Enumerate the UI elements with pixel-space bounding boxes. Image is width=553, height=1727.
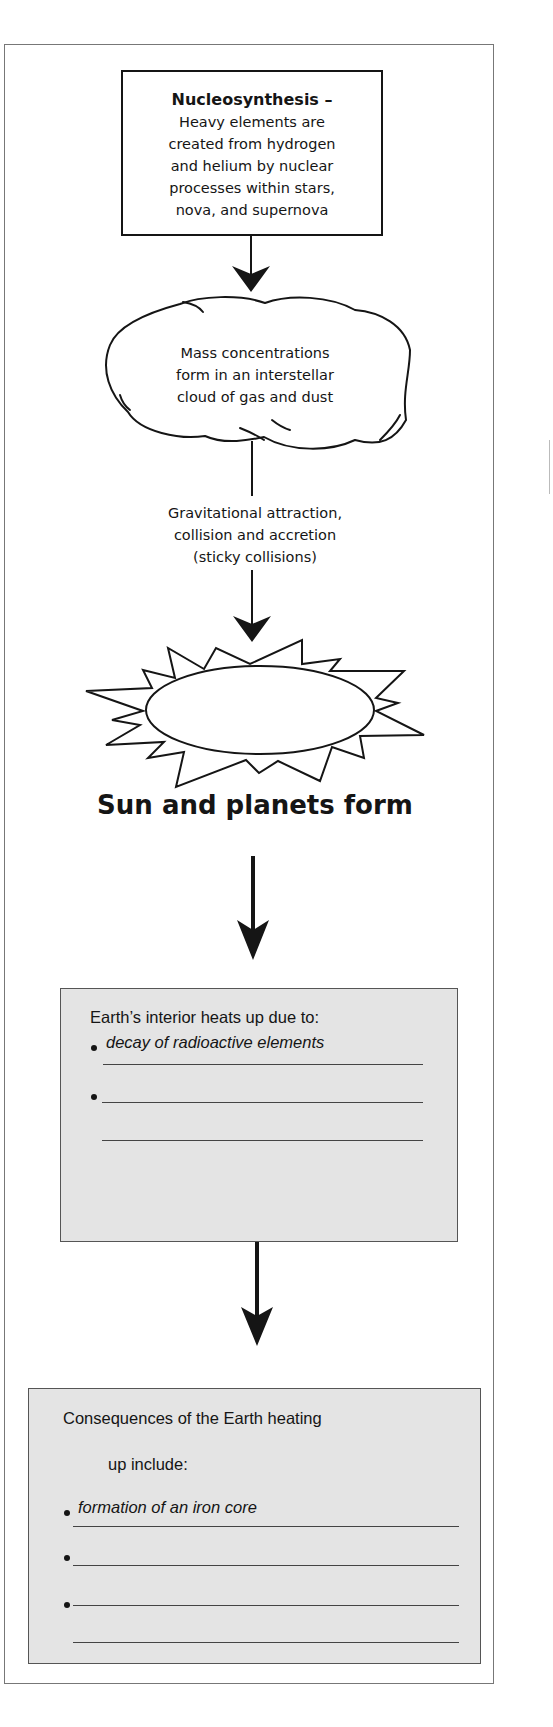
edge-label-gravitation: Gravitational attraction, collision and … — [120, 502, 390, 568]
arrow-down-icon — [233, 570, 271, 642]
arrow-down-icon — [241, 1240, 273, 1346]
edge-label-line: collision and accretion — [174, 527, 336, 543]
answer-line[interactable] — [102, 1140, 423, 1141]
edge-label-line: Gravitational attraction, — [168, 505, 342, 521]
answer-text: decay of radioactive elements — [106, 1033, 324, 1052]
earth-heats-box: Earth’s interior heats up due to: decay … — [60, 988, 458, 1242]
cloud-line: cloud of gas and dust — [177, 389, 333, 405]
cloud-line: Mass concentrations — [180, 345, 329, 361]
answer-line[interactable] — [73, 1642, 459, 1643]
earth-heats-heading: Earth’s interior heats up due to: — [90, 1008, 319, 1027]
answer-line[interactable] — [73, 1605, 459, 1606]
bullet-icon — [64, 1510, 70, 1516]
answer-line[interactable] — [73, 1565, 459, 1566]
arrow-down-icon — [237, 856, 269, 960]
consequences-box: Consequences of the Earth heating up inc… — [28, 1388, 481, 1664]
consequences-heading-line2: up include: — [108, 1455, 188, 1474]
arrow-down-icon — [232, 236, 270, 292]
sun-planets-label: Sun and planets form — [60, 790, 450, 820]
answer-text: formation of an iron core — [78, 1498, 257, 1517]
edge-label-line: (sticky collisions) — [193, 549, 317, 565]
answer-line[interactable] — [103, 1064, 423, 1065]
cloud-line: form in an interstellar — [176, 367, 334, 383]
bullet-icon — [64, 1555, 70, 1561]
bullet-icon — [64, 1602, 70, 1608]
bullet-icon — [91, 1094, 97, 1100]
consequences-heading-line1: Consequences of the Earth heating — [63, 1409, 322, 1428]
cloud-text: Mass concentrations form in an interstel… — [140, 342, 370, 408]
bullet-icon — [91, 1045, 97, 1051]
sun-starburst-shape — [86, 640, 424, 787]
answer-line[interactable] — [102, 1102, 423, 1103]
answer-line[interactable] — [73, 1526, 459, 1527]
